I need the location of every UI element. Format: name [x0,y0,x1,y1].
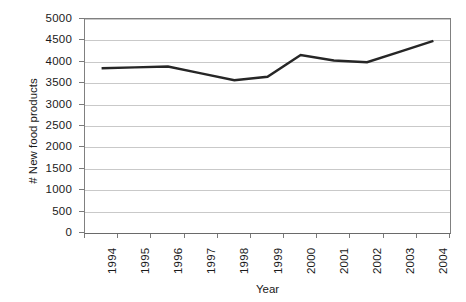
y-tick-label: 1000 [46,183,72,195]
line-chart: 0500100015002000250030003500400045005000… [0,0,466,302]
x-tick-mark [250,234,251,238]
y-tick-mark [79,61,84,62]
x-axis-ticklabels: 1994199519961997199819992000200120022003… [84,234,451,280]
y-tick-mark [79,232,84,233]
x-tick-mark [316,234,317,238]
y-tick-mark [79,18,84,19]
y-tick-label: 1500 [46,162,72,174]
y-tick-label: 4500 [46,33,72,45]
y-tick-label: 0 [65,226,72,238]
x-tick-label: 2004 [437,248,449,274]
x-axis-title: Year [84,283,451,295]
x-tick-label: 2000 [305,248,317,274]
y-tick-mark [79,189,84,190]
x-tick-mark [283,234,284,238]
x-tick-label: 2001 [338,248,350,274]
x-tick-mark [184,234,185,238]
x-tick-mark [449,234,450,238]
x-tick-label: 2002 [371,248,383,274]
x-tick-mark [416,234,417,238]
y-tick-label: 3500 [46,76,72,88]
plot-area [84,18,451,234]
x-tick-label: 2003 [404,248,416,274]
y-tick-mark [79,211,84,212]
x-tick-mark [117,234,118,238]
y-tick-label: 500 [52,205,72,217]
y-tick-label: 5000 [46,12,72,24]
x-tick-mark [349,234,350,238]
x-tick-label: 1998 [238,248,250,274]
y-tick-label: 4000 [46,55,72,67]
x-tick-mark [150,234,151,238]
y-tick-mark [79,104,84,105]
y-tick-mark [79,125,84,126]
x-tick-mark [383,234,384,238]
y-tick-label: 3000 [46,98,72,110]
x-tick-mark [84,234,85,238]
y-tick-label: 2500 [46,119,72,131]
x-tick-label: 1994 [106,248,118,274]
series-line [85,19,450,233]
x-tick-mark [217,234,218,238]
y-tick-mark [79,39,84,40]
y-tick-mark [79,82,84,83]
y-axis-ticklabels: 0500100015002000250030003500400045005000 [0,0,80,260]
x-tick-label: 1996 [172,248,184,274]
x-tick-label: 1995 [139,248,151,274]
y-tick-label: 2000 [46,140,72,152]
x-tick-label: 1999 [272,248,284,274]
x-tick-label: 1997 [205,248,217,274]
y-tick-mark [79,146,84,147]
y-axis-title: # New food products [27,36,39,226]
y-tick-mark [79,168,84,169]
